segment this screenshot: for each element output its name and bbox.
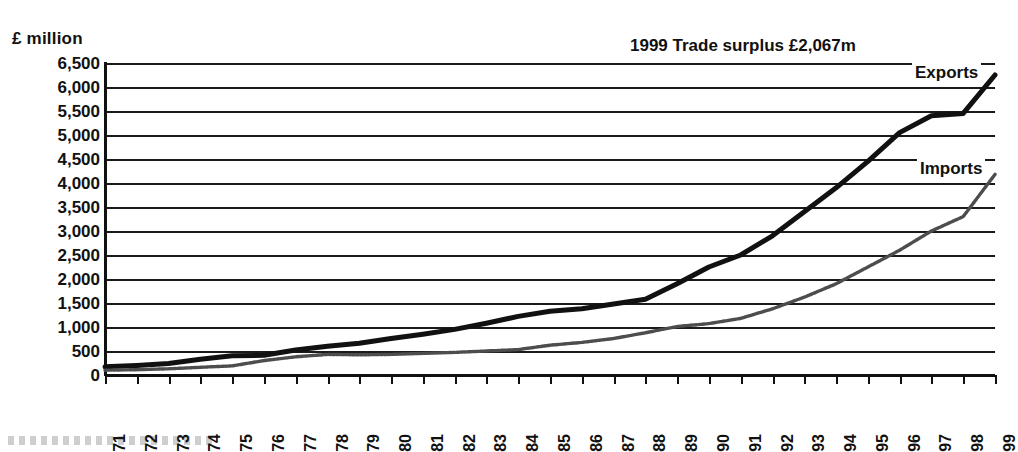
surplus-annotation: 1999 Trade surplus £2,067m: [627, 36, 859, 56]
imports-series-label: Imports: [917, 159, 985, 179]
exports-line: [105, 75, 995, 367]
imports-line: [105, 174, 995, 370]
page-footer-smudge: [8, 436, 213, 445]
exports-series-label: Exports: [912, 63, 981, 83]
series-lines: [0, 0, 1018, 452]
trade-line-chart: £ million 6,5006,0005,5005,0004,5004,000…: [0, 0, 1018, 452]
